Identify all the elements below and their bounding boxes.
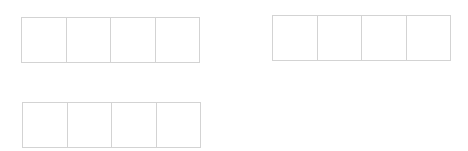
input-cell[interactable] (272, 15, 318, 61)
input-cell[interactable] (317, 15, 363, 61)
input-cell[interactable] (22, 102, 68, 148)
input-group-1 (21, 17, 200, 63)
input-cell[interactable] (110, 17, 156, 63)
input-cell[interactable] (406, 15, 452, 61)
input-cell[interactable] (111, 102, 157, 148)
input-cell[interactable] (67, 102, 113, 148)
input-cell[interactable] (21, 17, 67, 63)
input-cell[interactable] (361, 15, 407, 61)
input-cell[interactable] (155, 17, 201, 63)
input-group-3 (22, 102, 201, 148)
input-cell[interactable] (66, 17, 112, 63)
input-group-2 (272, 15, 451, 61)
input-cell[interactable] (156, 102, 202, 148)
